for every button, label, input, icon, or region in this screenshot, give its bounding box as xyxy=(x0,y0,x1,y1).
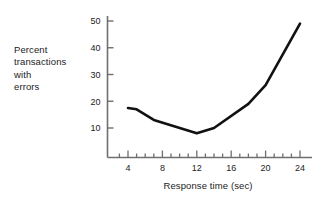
x-axis-tick-label: 12 xyxy=(192,163,202,173)
x-axis-tick-label: 8 xyxy=(160,163,165,173)
y-axis-tick-label: 50 xyxy=(90,16,100,26)
y-axis-tick-label: 20 xyxy=(90,97,100,107)
y-axis-label: Percent transactions with errors xyxy=(14,44,98,94)
chart-figure: Percent transactions with errors 1020304… xyxy=(0,0,321,200)
x-axis-tick-label: 20 xyxy=(261,163,271,173)
chart-plot-area: 1020304050 4812162024 xyxy=(0,0,321,200)
x-axis-tick-label: 24 xyxy=(295,163,305,173)
x-axis-label: Response time (sec) xyxy=(108,180,308,191)
y-axis-tick-label: 10 xyxy=(90,123,100,133)
x-axis-tick-label: 4 xyxy=(125,163,130,173)
x-axis-tick-label: 16 xyxy=(226,163,236,173)
